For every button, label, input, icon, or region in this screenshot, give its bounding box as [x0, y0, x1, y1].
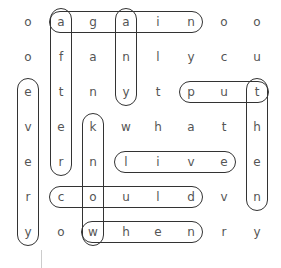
grid-letter[interactable]: u [247, 47, 267, 67]
grid-letter[interactable]: t [214, 117, 234, 137]
grid-letter[interactable]: l [148, 47, 168, 67]
grid-letter[interactable]: y [181, 47, 201, 67]
word-loop-then [246, 78, 268, 211]
word-loop-any [115, 8, 137, 106]
margin-line [41, 250, 42, 268]
grid-letter[interactable]: c [214, 47, 234, 67]
grid-letter[interactable]: r [214, 222, 234, 242]
word-loop-after [50, 8, 72, 176]
grid-letter[interactable]: t [148, 82, 168, 102]
grid-letter[interactable]: o [18, 12, 38, 32]
grid-letter[interactable]: h [148, 117, 168, 137]
word-loop-every [17, 78, 39, 246]
grid-letter[interactable]: a [181, 117, 201, 137]
grid-letter[interactable]: w [116, 117, 136, 137]
grid-letter[interactable]: o [214, 12, 234, 32]
grid-letter[interactable]: v [214, 187, 234, 207]
grid-letter[interactable]: a [83, 47, 103, 67]
grid-letter[interactable]: o [51, 222, 71, 242]
word-loop-could [49, 186, 203, 208]
grid-letter[interactable]: y [247, 222, 267, 242]
grid-letter[interactable]: n [83, 82, 103, 102]
word-loop-when [81, 221, 203, 243]
grid-letter[interactable]: o [247, 12, 267, 32]
grid-letter[interactable]: o [18, 47, 38, 67]
word-loop-live [114, 151, 236, 173]
